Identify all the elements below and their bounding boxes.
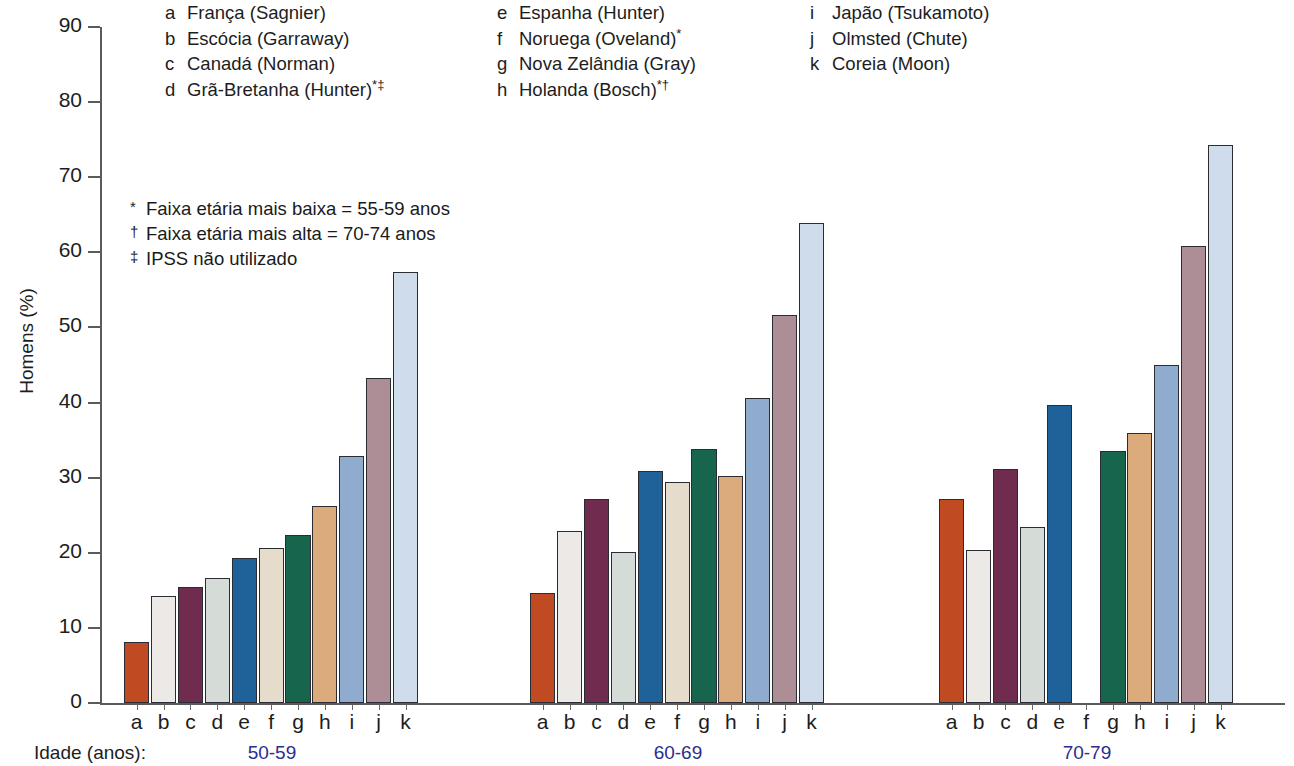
x-label-60-69-j: j xyxy=(772,710,798,734)
bar-50-59-c xyxy=(178,587,203,703)
bar-50-59-a xyxy=(124,642,149,703)
x-label-60-69-c: c xyxy=(583,710,609,734)
bar-50-59-g xyxy=(285,535,310,703)
x-label-70-79-c: c xyxy=(992,710,1018,734)
x-label-70-79-i: i xyxy=(1154,710,1180,734)
x-label-60-69-a: a xyxy=(530,710,556,734)
bar-50-59-h xyxy=(312,506,337,703)
x-label-60-69-g: g xyxy=(691,710,717,734)
x-label-70-79-g: g xyxy=(1100,710,1126,734)
bar-70-79-c xyxy=(993,469,1018,703)
bar-60-69-g xyxy=(691,449,716,703)
group-label-60-69: 60-69 xyxy=(618,742,738,764)
x-label-50-59-g: g xyxy=(285,710,311,734)
plot-area: 0102030405060708090 Homens (%) abcdefghi… xyxy=(0,0,1294,766)
bar-60-69-i xyxy=(745,398,770,703)
bar-70-79-g xyxy=(1100,451,1125,703)
bar-60-69-d xyxy=(611,552,636,703)
x-label-70-79-e: e xyxy=(1046,710,1072,734)
bar-50-59-d xyxy=(205,578,230,703)
bar-70-79-e xyxy=(1047,405,1072,703)
bar-50-59-f xyxy=(259,548,284,703)
bars-layer xyxy=(0,0,1294,703)
bar-50-59-e xyxy=(232,558,257,703)
bar-60-69-b xyxy=(557,531,582,703)
bar-70-79-d xyxy=(1020,527,1045,703)
bar-60-69-k xyxy=(799,223,824,703)
x-label-60-69-k: k xyxy=(799,710,825,734)
x-label-50-59-j: j xyxy=(366,710,392,734)
bar-50-59-j xyxy=(366,378,391,703)
group-label-70-79: 70-79 xyxy=(1027,742,1147,764)
bar-50-59-k xyxy=(393,272,418,703)
bar-60-69-h xyxy=(718,476,743,703)
bar-60-69-a xyxy=(530,593,555,703)
bar-70-79-b xyxy=(966,550,991,703)
x-label-50-59-k: k xyxy=(393,710,419,734)
x-label-60-69-h: h xyxy=(718,710,744,734)
x-label-70-79-f: f xyxy=(1073,710,1099,734)
x-label-60-69-d: d xyxy=(610,710,636,734)
x-label-50-59-b: b xyxy=(151,710,177,734)
x-label-60-69-i: i xyxy=(745,710,771,734)
bar-50-59-i xyxy=(339,456,364,703)
bar-70-79-h xyxy=(1127,433,1152,703)
x-label-70-79-b: b xyxy=(966,710,992,734)
group-label-50-59: 50-59 xyxy=(212,742,332,764)
bar-60-69-c xyxy=(584,499,609,703)
x-label-70-79-k: k xyxy=(1208,710,1234,734)
bar-70-79-j xyxy=(1181,246,1206,703)
x-label-60-69-e: e xyxy=(637,710,663,734)
x-label-50-59-a: a xyxy=(124,710,150,734)
x-label-50-59-f: f xyxy=(258,710,284,734)
idade-label: Idade (anos): xyxy=(34,742,146,764)
x-label-70-79-j: j xyxy=(1181,710,1207,734)
bar-60-69-j xyxy=(772,315,797,703)
bar-70-79-i xyxy=(1154,365,1179,703)
x-label-50-59-d: d xyxy=(204,710,230,734)
x-label-50-59-i: i xyxy=(339,710,365,734)
x-label-50-59-e: e xyxy=(231,710,257,734)
bar-50-59-b xyxy=(151,596,176,703)
x-axis-line xyxy=(100,703,1285,705)
bar-70-79-k xyxy=(1208,145,1233,703)
x-label-50-59-c: c xyxy=(177,710,203,734)
x-label-70-79-h: h xyxy=(1127,710,1153,734)
x-label-60-69-b: b xyxy=(557,710,583,734)
chart-figure: aFrança (Sagnier)bEscócia (Garraway)cCan… xyxy=(0,0,1294,766)
x-label-70-79-d: d xyxy=(1019,710,1045,734)
x-label-50-59-h: h xyxy=(312,710,338,734)
x-label-70-79-a: a xyxy=(939,710,965,734)
bar-60-69-f xyxy=(665,482,690,703)
bar-60-69-e xyxy=(638,471,663,703)
x-label-60-69-f: f xyxy=(664,710,690,734)
bar-70-79-a xyxy=(939,499,964,703)
